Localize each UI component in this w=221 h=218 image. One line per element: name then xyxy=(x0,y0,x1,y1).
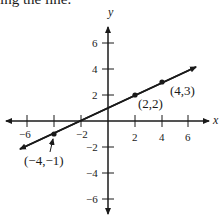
point-neg4-neg1 xyxy=(51,131,56,136)
y-axis-label: y xyxy=(107,5,114,19)
x-tick-label: −6 xyxy=(19,128,31,140)
y-tick-label: 4 xyxy=(92,63,98,75)
x-axis-label: x xyxy=(212,113,219,127)
y-tick-label: 2 xyxy=(92,89,98,101)
point-4-3 xyxy=(159,79,164,84)
coordinate-plane: −6 −2 2 4 6 x 6 4 2 −2 −4 −6 y (−4,−1) (… xyxy=(0,0,221,218)
pointer-arrow xyxy=(50,139,53,152)
point-label: (2,2) xyxy=(138,96,163,111)
x-tick-label: −2 xyxy=(76,128,88,140)
x-tick-label: 2 xyxy=(132,131,138,143)
y-tick-label: −2 xyxy=(86,141,98,153)
point-2-2 xyxy=(132,92,137,97)
point-label: (4,3) xyxy=(170,83,195,98)
x-tick-label: 4 xyxy=(159,131,165,143)
point-label: (−4,−1) xyxy=(24,153,64,168)
y-tick-label: −4 xyxy=(86,167,98,179)
y-tick-label: 6 xyxy=(92,37,98,49)
x-tick-label: 6 xyxy=(185,131,191,143)
y-tick-label: −6 xyxy=(86,193,98,205)
